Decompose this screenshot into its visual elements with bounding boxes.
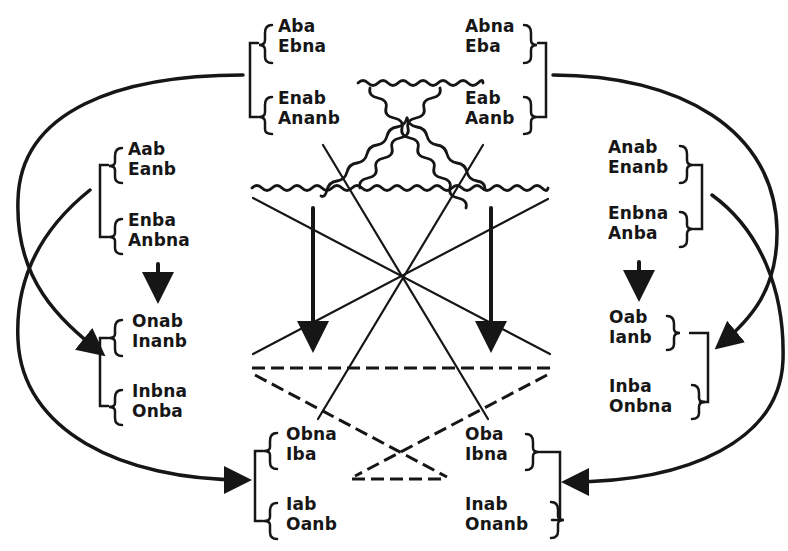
bracket-top-left [250, 25, 272, 134]
label-iba: Iba [286, 444, 317, 464]
label-aba: Aba [278, 16, 315, 36]
label-onanb: Onanb [465, 514, 528, 534]
label-enab: Enab [278, 88, 326, 108]
label-oanb: Oanb [286, 514, 337, 534]
label-abna: Abna [465, 16, 515, 36]
bracket-mid-right-upper [680, 146, 702, 247]
label-ibna: Ibna [465, 444, 508, 464]
label-inbna: Inbna [132, 381, 187, 401]
label-ananb: Ananb [278, 108, 340, 128]
curve-arrow-mid-right-upper-to-bottom-right [568, 195, 783, 482]
wavy-line-long [252, 186, 548, 191]
label-enba: Enba [128, 210, 176, 230]
label-eab: Eab [465, 88, 501, 108]
label-oab: Oab [609, 307, 648, 327]
label-onbna: Onbna [609, 396, 672, 416]
label-eba: Eba [465, 36, 501, 56]
label-inba: Inba [609, 376, 652, 396]
label-enbna: Enbna [608, 203, 668, 223]
bracket-bottom-right [526, 434, 564, 538]
label-eanb: Eanb [128, 159, 176, 179]
label-oba: Oba [465, 424, 504, 444]
bracket-mid-left-upper [100, 148, 122, 254]
label-obna: Obna [286, 424, 337, 444]
label-enanb: Enanb [608, 157, 668, 177]
label-ianb: Ianb [609, 327, 652, 347]
bracket-mid-left-lower [100, 320, 122, 425]
bracket-mid-right-lower [667, 316, 708, 419]
label-inab: Inab [465, 494, 508, 514]
label-iab: Iab [286, 494, 317, 514]
label-inanb: Inanb [132, 331, 187, 351]
label-anbna: Anbna [128, 230, 190, 250]
label-anab: Anab [608, 137, 658, 157]
bracket-top-right [524, 25, 546, 134]
label-aab: Aab [128, 139, 165, 159]
label-aanb: Aanb [465, 108, 515, 128]
diagram-canvas [0, 0, 788, 551]
label-onba: Onba [132, 401, 183, 421]
label-ebna: Ebna [278, 36, 326, 56]
wavy-line-top-short [358, 81, 483, 86]
wavy-diagonal-left-lower [321, 118, 407, 196]
label-anba: Anba [608, 223, 658, 243]
bracket-bottom-left [255, 433, 277, 539]
label-onab: Onab [132, 311, 183, 331]
